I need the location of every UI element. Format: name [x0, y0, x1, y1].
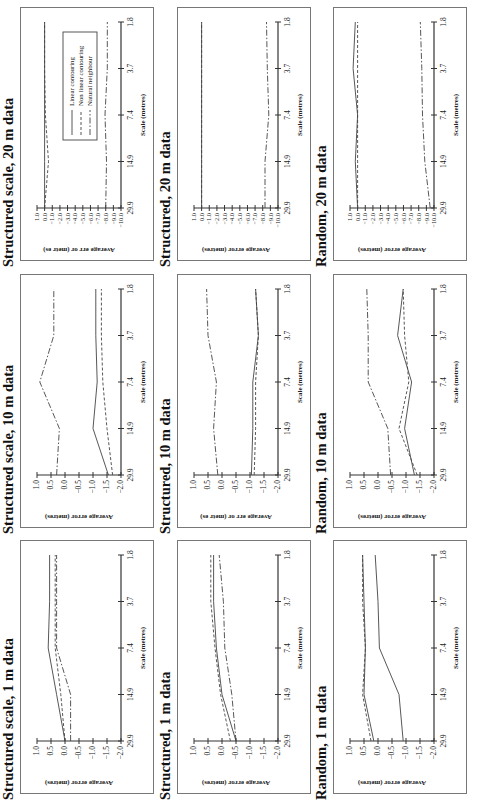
plot-box: 1.00.50.0−0.5−1.0−1.5−2.0Average error (… [177, 540, 311, 794]
y-tick-label: −9.0 [423, 213, 430, 224]
x-tick-label: 14.9 [283, 688, 292, 701]
y-tick-label: −0.5 [387, 480, 396, 494]
x-tick-label: 29.9 [439, 468, 448, 481]
figure-grid: Structured scale, 1 m data 1.00.50.0−0.5… [0, 0, 479, 806]
y-tick-label: 0.0 [354, 213, 361, 221]
y-axis-label: Average error (metres) [44, 779, 113, 787]
y-tick-label: −1.0 [361, 213, 368, 224]
series-line [45, 22, 49, 208]
y-tick-label: −8.0 [415, 213, 422, 224]
x-axis-label: Scale (metres) [139, 93, 147, 136]
y-axis-label: Average err or (metr es) [42, 246, 114, 254]
x-tick-label: 14.9 [126, 688, 135, 701]
y-tick-label: 0.0 [373, 746, 382, 756]
x-tick-label: 7.4 [439, 110, 448, 120]
x-tick-label: 3.7 [126, 331, 135, 341]
plot-box: 1.00.0−1.0−2.0−3.0−4.0−5.0−6.0−7.0−8.0−9… [177, 7, 311, 261]
x-tick-label: 3.7 [439, 64, 448, 74]
y-axis-label: Average error (metres) [44, 513, 113, 521]
y-tick-label: 1.0 [32, 746, 41, 756]
line-chart: 1.00.0−1.0−2.0−3.0−4.0−5.0−6.0−7.0−8.0−9… [334, 6, 468, 260]
y-tick-label: −1.5 [415, 746, 424, 760]
plot-box: 1.00.50.0−0.5−1.0−1.5−2.0Average err or … [177, 274, 311, 528]
y-tick-label: 0.5 [359, 746, 368, 756]
panel-structured-20m: Structured, 20 m data 1.00.0−1.0−2.0−3.0… [157, 5, 315, 267]
x-tick-label: 14.9 [439, 422, 448, 435]
y-tick-label: −4.0 [384, 213, 391, 224]
panel-random-20m: Random, 20 m data 1.00.0−1.0−2.0−3.0−4.0… [313, 5, 471, 267]
y-tick-label: 0.0 [198, 213, 205, 221]
plot-box: 1.00.50.0−0.5−1.0−1.5−2.0Average error (… [20, 274, 154, 528]
x-tick-label: 1.8 [439, 550, 448, 560]
y-tick-label: −1.0 [88, 746, 97, 760]
x-tick-label: 14.9 [283, 155, 292, 168]
y-axis-label: Average error (metres) [357, 513, 426, 521]
y-axis-label: Average error (metres) [357, 779, 426, 787]
x-tick-label: 14.9 [126, 422, 135, 435]
x-tick-label: 1.8 [126, 284, 135, 294]
x-tick-label: 29.9 [439, 734, 448, 747]
y-tick-label: 1.0 [190, 213, 197, 221]
series-line [375, 555, 403, 741]
series-line [105, 22, 107, 208]
y-tick-label: −5.0 [79, 213, 86, 224]
plot-box: 1.00.50.0−0.5−1.0−1.5−2.0Average error (… [333, 540, 467, 794]
y-tick-label: −0.5 [231, 746, 240, 760]
y-tick-label: −2.0 [429, 480, 438, 494]
panel-title: Random, 20 m data [313, 145, 331, 267]
y-tick-label: −5.0 [236, 213, 243, 224]
y-tick-label: −2.0 [116, 746, 125, 760]
y-tick-label: −5.0 [392, 213, 399, 224]
panel-title: Random, 10 m data [313, 412, 331, 534]
x-tick-label: 1.8 [283, 284, 292, 294]
panel-random-10m: Random, 10 m data 1.00.50.0−0.5−1.0−1.5−… [313, 272, 471, 534]
x-tick-label: 3.7 [439, 597, 448, 607]
legend-entry: Non linear contouring [77, 45, 84, 106]
y-tick-label: −9.0 [110, 213, 117, 224]
x-tick-label: 14.9 [126, 155, 135, 168]
x-tick-label: 7.4 [283, 643, 292, 653]
panel-structured-scale-20m: Structured scale, 20 m data 1.00.0−1.0−2… [0, 5, 158, 267]
panel-title: Structured scale, 1 m data [0, 638, 18, 800]
x-axis-label: Scale (metres) [452, 360, 460, 403]
y-tick-label: 0.0 [217, 480, 226, 490]
plot-box: 1.00.0−1.0−2.0−3.0−4.0−5.0−6.0−7.0−8.0−9… [333, 7, 467, 261]
x-tick-label: 29.9 [439, 201, 448, 214]
x-tick-label: 29.9 [283, 734, 292, 747]
y-axis-label: Average error (metres) [201, 779, 270, 787]
y-tick-label: −0.5 [74, 746, 83, 760]
y-tick-label: 0.0 [60, 746, 69, 756]
x-tick-label: 7.4 [126, 110, 135, 120]
y-tick-label: 0.0 [60, 480, 69, 490]
panel-title: Structured scale, 10 m data [0, 365, 18, 534]
x-tick-label: 3.7 [126, 64, 135, 74]
y-tick-label: −4.0 [228, 213, 235, 224]
y-tick-label: −1.0 [48, 213, 55, 224]
series-line [207, 289, 218, 475]
y-tick-label: −7.0 [94, 213, 101, 224]
y-tick-label: −1.5 [415, 480, 424, 494]
series-line [40, 289, 60, 475]
x-tick-label: 29.9 [283, 468, 292, 481]
series-line [420, 22, 430, 208]
y-tick-label: −6.0 [244, 213, 251, 224]
x-axis-label: Scale (metres) [296, 93, 304, 136]
panel-title: Structured, 10 m data [157, 398, 175, 534]
y-tick-label: −10.0 [274, 213, 281, 228]
x-tick-label: 7.4 [126, 377, 135, 387]
y-tick-label: −9.0 [267, 213, 274, 224]
y-tick-label: 0.5 [359, 480, 368, 490]
y-tick-label: −1.0 [88, 480, 97, 494]
y-tick-label: −2.0 [213, 213, 220, 224]
series-line [101, 289, 112, 475]
y-tick-label: −1.5 [102, 746, 111, 760]
y-tick-label: 1.0 [189, 480, 198, 490]
y-tick-label: −8.0 [259, 213, 266, 224]
legend: Linear contouringNon linear contouringNa… [63, 32, 97, 140]
y-tick-label: −2.0 [273, 480, 282, 494]
legend-entry: Natural neighbour [86, 56, 93, 106]
x-tick-label: 1.8 [283, 550, 292, 560]
x-axis-label: Scale (metres) [139, 626, 147, 669]
y-tick-label: 0.0 [217, 746, 226, 756]
y-tick-label: −1.0 [205, 213, 212, 224]
